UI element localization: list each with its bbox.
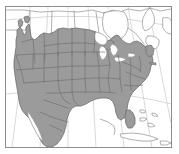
bahamas-outline (140, 110, 146, 113)
map-canvas[interactable] (0, 0, 179, 154)
map-figure: Map of North America with contiguous Uni… (0, 0, 179, 154)
